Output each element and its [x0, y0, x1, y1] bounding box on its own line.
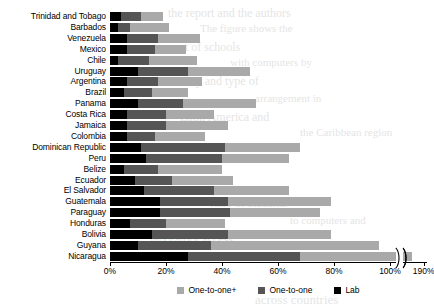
chart-row: Chile	[0, 56, 433, 66]
bar-segment-lab	[110, 230, 152, 239]
stacked-bar[interactable]	[110, 88, 188, 97]
x-axis-tick-label: 20%	[157, 266, 174, 277]
bar-segment-lab	[110, 77, 127, 86]
bar-segment-oneplus	[222, 154, 289, 163]
bar-segment-lab	[110, 143, 141, 152]
stacked-bar[interactable]	[110, 208, 320, 217]
bar-segment-one	[138, 67, 188, 76]
bar-segment-oneplus	[166, 110, 214, 119]
bar-segment-oneplus	[130, 23, 169, 32]
bar-segment-lab	[110, 45, 127, 54]
legend-label: One-to-one+	[188, 285, 236, 296]
bar-segment-lab	[110, 165, 124, 174]
chart-row: Barbados	[0, 23, 433, 33]
bar-segment-one	[138, 99, 183, 108]
bar-segment-oneplus	[228, 230, 332, 239]
x-axis-tick-label: 100%	[379, 266, 401, 277]
chart-row: Guyana	[0, 241, 433, 251]
chart-row: Belize	[0, 165, 433, 175]
bar-segment-one	[118, 56, 149, 65]
bar-segment-one	[127, 132, 155, 141]
bar-segment-one	[127, 121, 166, 130]
stacked-bar[interactable]	[110, 230, 331, 239]
bar-segment-oneplus	[141, 12, 163, 21]
bar-segment-oneplus	[214, 186, 290, 195]
chart-row: Venezuela	[0, 34, 433, 44]
category-label: Panama	[75, 98, 106, 108]
bar-segment-lab	[110, 34, 127, 43]
stacked-bar[interactable]	[110, 132, 205, 141]
stacked-bar[interactable]	[110, 154, 289, 163]
chart-row: Bolivia	[0, 230, 433, 240]
bar-segment-lab	[110, 67, 138, 76]
stacked-bar[interactable]	[110, 99, 256, 108]
category-label: Brazil	[85, 87, 106, 97]
stacked-bar[interactable]	[110, 143, 300, 152]
stacked-bar[interactable]	[110, 67, 250, 76]
bar-segment-one	[188, 252, 300, 261]
stacked-bar[interactable]	[110, 56, 197, 65]
x-axis-tick-label: 0%	[104, 266, 116, 277]
bar-segment-one	[141, 143, 225, 152]
category-label: Trinidad and Tobago	[31, 11, 106, 21]
bar-segment-oneplus	[172, 176, 234, 185]
bar-segment-one	[130, 219, 166, 228]
bar-segment-lab	[110, 208, 160, 217]
stacked-bar[interactable]	[110, 219, 225, 228]
bar-segment-one	[146, 154, 222, 163]
bar-segment-oneplus	[155, 45, 186, 54]
bar-segment-oneplus	[152, 88, 188, 97]
bar-segment-lab	[110, 88, 124, 97]
category-label: Barbados	[70, 22, 106, 32]
bar-segment-lab	[110, 121, 127, 130]
bar-segment-one	[127, 45, 155, 54]
category-label: Uruguay	[75, 66, 106, 76]
bar-segment-oneplus	[188, 67, 250, 76]
chart-row: El Salvador	[0, 186, 433, 196]
stacked-bar[interactable]	[110, 110, 214, 119]
chart-row: Jamaica	[0, 121, 433, 131]
stacked-bar[interactable]	[110, 176, 233, 185]
stacked-bar[interactable]	[110, 165, 222, 174]
legend-item-oneplus[interactable]: One-to-one+	[177, 285, 236, 296]
legend-swatch-icon	[334, 287, 341, 294]
bar-segment-lab	[110, 110, 127, 119]
category-label: Argentina	[71, 76, 107, 86]
legend-item-lab[interactable]: Lab	[334, 285, 359, 296]
stacked-bar[interactable]	[110, 241, 379, 250]
stacked-bar[interactable]	[110, 186, 289, 195]
category-label: Costa Rica	[65, 109, 106, 119]
chart-row: Mexico	[0, 45, 433, 55]
bar-segment-lab	[110, 12, 121, 21]
bar-segment-lab	[110, 99, 138, 108]
bar-segment-one	[124, 165, 158, 174]
legend-label: Lab	[345, 285, 359, 296]
legend-item-one[interactable]: One-to-one	[258, 285, 312, 296]
category-label: Ecuador	[75, 175, 106, 185]
stacked-bar[interactable]	[110, 45, 186, 54]
bar-segment-lab	[110, 154, 146, 163]
stacked-bar[interactable]	[110, 12, 163, 21]
stacked-bar[interactable]	[110, 23, 169, 32]
category-label: Nicaragua	[68, 251, 106, 261]
bar-segment-one	[127, 77, 158, 86]
bar-segment-one	[152, 230, 228, 239]
bar-segment-oneplus	[149, 56, 197, 65]
stacked-bar[interactable]	[110, 34, 200, 43]
bar-segment-one	[118, 23, 129, 32]
bar-segment-oneplus	[230, 208, 320, 217]
stacked-bar[interactable]	[110, 77, 202, 86]
bar-segment-oneplus	[158, 165, 222, 174]
category-label: Bolivia	[82, 229, 106, 239]
stacked-bar[interactable]	[110, 252, 412, 261]
category-label: Colombia	[71, 131, 106, 141]
bar-segment-lab	[110, 23, 118, 32]
bar-segment-one	[135, 176, 171, 185]
stacked-bar[interactable]	[110, 121, 228, 130]
category-label: Chile	[87, 55, 106, 65]
category-label: Mexico	[80, 44, 106, 54]
stacked-bar[interactable]	[110, 197, 331, 206]
category-label: Honduras	[70, 218, 106, 228]
